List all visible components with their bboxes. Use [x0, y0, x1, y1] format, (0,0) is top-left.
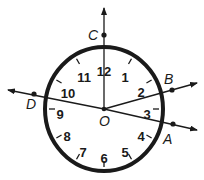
clock-number-6: 6 [100, 151, 107, 166]
point-b [169, 87, 174, 92]
ray-ob [104, 83, 197, 109]
label-c: C [88, 27, 99, 43]
tick-mark [56, 80, 61, 83]
tick-mark [56, 135, 61, 138]
clock-number-1: 1 [121, 70, 128, 85]
point-c [101, 32, 106, 37]
tick-mark [146, 80, 151, 83]
clock-number-7: 7 [79, 145, 86, 160]
tick-mark [77, 59, 80, 64]
clock-number-11: 11 [77, 70, 91, 85]
clock-number-10: 10 [61, 86, 75, 101]
point-a [170, 121, 175, 126]
center-point-o [102, 107, 107, 112]
label-a: A [162, 131, 172, 147]
clock-number-4: 4 [137, 129, 145, 144]
clock-number-9: 9 [56, 107, 63, 122]
tick-mark [129, 154, 132, 159]
clock-diagram: 121234567891011 C B A D O [0, 0, 204, 180]
label-o: O [99, 113, 110, 129]
clock-number-5: 5 [121, 145, 128, 160]
tick-mark [146, 135, 151, 138]
tick-mark [129, 59, 132, 64]
label-d: D [26, 96, 36, 112]
label-b: B [164, 71, 173, 87]
clock-number-8: 8 [63, 129, 70, 144]
